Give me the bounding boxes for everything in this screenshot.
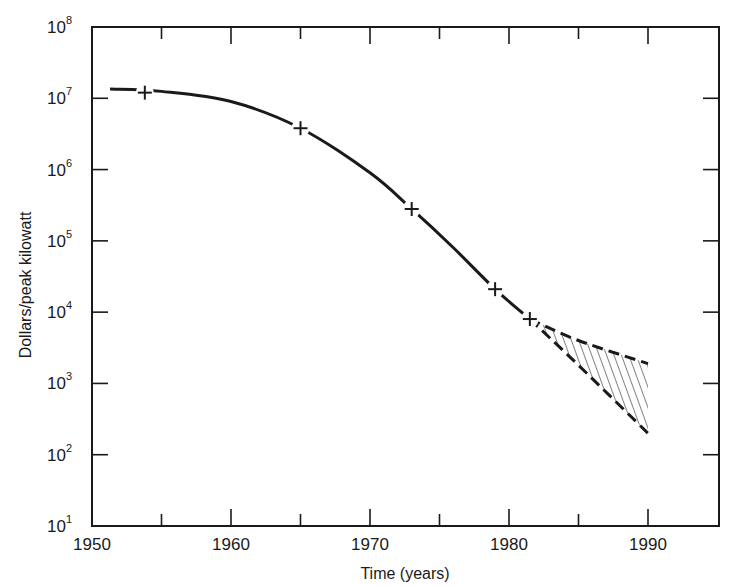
data-series	[110, 89, 648, 433]
y-tick-label: 104	[47, 299, 72, 322]
y-tick-label: 107	[47, 85, 72, 108]
axis-ticks	[92, 27, 719, 526]
x-axis-title: Time (years)	[360, 565, 449, 582]
y-tick-label: 108	[47, 14, 72, 37]
y-tick-label: 105	[47, 228, 72, 251]
y-axis-title: Dollars/peak kilowatt	[17, 211, 34, 358]
y-tick-label: 103	[47, 370, 72, 393]
data-point-markers	[136, 84, 539, 328]
historical-cost-curve	[110, 89, 530, 319]
x-tick-labels: 19501960197019801990	[73, 535, 667, 554]
plot-border	[92, 27, 719, 526]
x-tick-label: 1960	[212, 535, 250, 554]
y-tick-label: 106	[47, 157, 72, 180]
y-tick-label: 102	[47, 442, 72, 465]
x-tick-label: 1980	[490, 535, 528, 554]
plot-frame	[92, 27, 719, 526]
x-tick-label: 1950	[73, 535, 111, 554]
y-tick-label: 101	[47, 513, 72, 536]
x-tick-label: 1970	[351, 535, 389, 554]
y-tick-labels: 101102103104105106107108	[47, 14, 72, 536]
chart: 101102103104105106107108 195019601970198…	[0, 0, 730, 586]
x-tick-label: 1990	[629, 535, 667, 554]
